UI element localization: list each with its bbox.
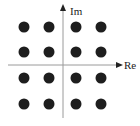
constellation-point [19, 99, 30, 110]
imaginary-axis-arrow-icon [60, 4, 66, 11]
constellation-point [71, 22, 82, 33]
real-axis-arrow-icon [116, 62, 123, 68]
constellation-point [96, 73, 107, 84]
constellation-point [96, 99, 107, 110]
constellation-point [96, 47, 107, 58]
constellation-point [19, 47, 30, 58]
constellation-point [44, 99, 55, 110]
constellation-point [19, 73, 30, 84]
constellation-point [44, 22, 55, 33]
real-axis-label: Re [124, 59, 136, 71]
constellation-point [96, 22, 107, 33]
constellation-point [71, 99, 82, 110]
constellation-point [19, 22, 30, 33]
constellation-point [44, 73, 55, 84]
imaginary-axis-label: Im [70, 5, 83, 17]
constellation-point [44, 47, 55, 58]
constellation-point [71, 47, 82, 58]
constellation-diagram: Re Im [0, 0, 140, 126]
constellation-point [71, 73, 82, 84]
